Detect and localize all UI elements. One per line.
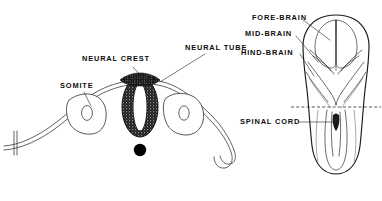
label-somite: SOMITE xyxy=(60,81,93,90)
label-hind-brain: HIND-BRAIN xyxy=(241,48,293,57)
label-fore-brain: FORE-BRAIN xyxy=(252,13,307,22)
notochord xyxy=(134,144,146,156)
label-mid-brain: MID-BRAIN xyxy=(245,29,292,38)
label-spinal-cord: SPINAL CORD xyxy=(240,117,300,126)
label-neural-crest: NEURAL CREST xyxy=(82,54,150,63)
figure-root: NEURAL CREST SOMITE NEURAL TUBE FORE-BRA… xyxy=(0,0,382,201)
label-neural-tube: NEURAL TUBE xyxy=(185,43,247,52)
embryology-diagram: NEURAL CREST SOMITE NEURAL TUBE FORE-BRA… xyxy=(0,0,382,201)
